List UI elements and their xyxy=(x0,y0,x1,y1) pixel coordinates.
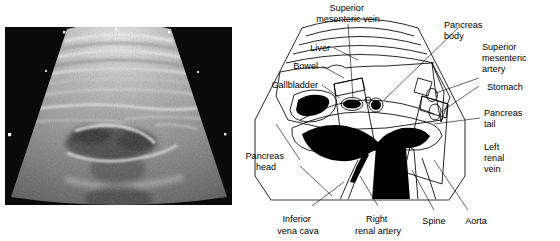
label-pancreas-body: Pancreas body xyxy=(444,20,485,41)
gallbladder-shape xyxy=(296,95,329,116)
leader-pancreas-head-b xyxy=(300,166,332,196)
label-pancreas-tail: Pancreas tail xyxy=(484,108,525,129)
label-pancreas-head: Pancreas head xyxy=(246,151,287,172)
label-right-renal-artery: Right renal artery xyxy=(355,214,401,236)
label-superior-mesenteric-vein: Superior mesenteric vein xyxy=(316,3,380,24)
label-spine: Spine xyxy=(422,216,445,226)
ultrasound-canvas xyxy=(5,27,232,205)
label-gallbladder: Gallbladder xyxy=(271,80,318,90)
sector-outline xyxy=(255,19,465,200)
label-aorta: Aorta xyxy=(465,216,488,226)
label-stomach: Stomach xyxy=(487,82,523,92)
leader-spine xyxy=(412,170,434,210)
fascial-arc-lines xyxy=(286,28,434,64)
figure-root: Superior mesenteric vein Pancreas body S… xyxy=(0,0,560,241)
leader-ivc xyxy=(312,182,344,206)
diagram-canvas: Superior mesenteric vein Pancreas body S… xyxy=(236,0,560,241)
ultrasound-image xyxy=(5,27,232,205)
leader-aorta xyxy=(434,160,468,210)
leader-liver xyxy=(334,48,358,60)
label-liver: Liver xyxy=(310,43,330,53)
label-left-renal-vein: Left renal vein xyxy=(484,142,507,174)
label-bowel: Bowel xyxy=(293,61,318,71)
superior-mesenteric-artery-shape xyxy=(371,100,381,110)
sma-fat-region xyxy=(414,78,432,96)
label-inferior-vena-cava: Inferior vena cava xyxy=(277,214,319,236)
aorta-spine-shape xyxy=(372,143,410,200)
superior-mesenteric-vein-shape xyxy=(343,100,361,109)
leader-smv xyxy=(348,24,353,98)
bowel-gas-region xyxy=(334,78,365,96)
anatomy-key-diagram: Superior mesenteric vein Pancreas body S… xyxy=(236,0,560,241)
label-superior-mesenteric-artery: Superior mesenteric artery xyxy=(482,42,529,74)
leader-bowel xyxy=(322,66,344,78)
diagram-sector-body xyxy=(255,19,465,200)
